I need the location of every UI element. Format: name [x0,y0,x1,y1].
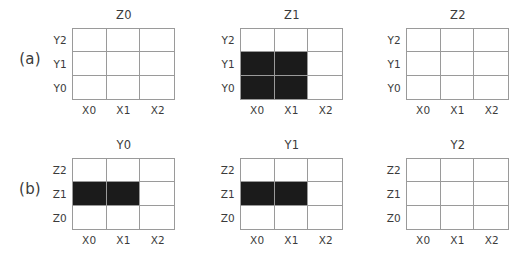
grid-cell-empty [308,182,342,205]
x-axis-labels-z1: X0 X1 X2 [240,104,343,116]
x-tick-label: X0 [240,234,274,246]
panel-title-z1: Z1 [240,8,344,22]
x-tick-label: X1 [106,234,140,246]
panel-title-z2: Z2 [406,8,510,22]
grid-wrap-y1 [240,158,343,230]
panel-title-y0: Y0 [72,138,176,152]
grid-cell-empty [107,76,141,99]
panel-title-y2: Y2 [406,138,510,152]
panel-y1: Y1 Z2 Z1 Z0 X0 X1 X2 [186,130,346,259]
figure-row-a: (a) Z0 Y2 Y1 Y0 X0 X1 X2 Z1 Y2 Y1 [0,0,498,129]
grid-z0 [72,28,175,100]
y-tick-label: Z0 [21,212,67,224]
grid-cell-empty [107,52,141,75]
grid-cell-empty [140,159,174,182]
panel-y0: Y0 Z2 Z1 Z0 X0 X1 X2 [18,130,178,259]
x-tick-label: X2 [475,104,509,116]
grid-cell-empty [441,206,475,229]
grid-cell-empty [474,29,508,52]
panel-z1: Z1 Y2 Y1 Y0 X0 X1 X2 [186,0,346,129]
grid-y1 [240,158,343,230]
grid-cell-filled [241,182,275,205]
grid-cell-empty [441,182,475,205]
grid-cell-empty [241,159,275,182]
x-tick-label: X1 [440,104,474,116]
grid-cell-filled [73,182,107,205]
grid-cell-empty [407,52,441,75]
x-tick-label: X2 [309,104,343,116]
grid-cell-empty [407,159,441,182]
grid-cell-filled [275,76,309,99]
grid-cell-empty [140,29,174,52]
panel-z0: Z0 Y2 Y1 Y0 X0 X1 X2 [18,0,178,129]
grid-cell-empty [441,52,475,75]
grid-cell-empty [73,29,107,52]
grid-cell-empty [140,76,174,99]
y-tick-label: Y2 [21,34,67,46]
grid-z2 [406,28,509,100]
grid-cell-empty [73,206,107,229]
x-tick-label: X2 [141,234,175,246]
y-tick-label: Z1 [21,188,67,200]
grid-cell-empty [407,76,441,99]
y-tick-label: Y2 [189,34,235,46]
panel-title-z0: Z0 [72,8,176,22]
x-tick-label: X0 [72,234,106,246]
y-tick-label: Y0 [355,82,401,94]
grid-cell-empty [474,159,508,182]
x-tick-label: X2 [475,234,509,246]
grid-z1 [240,28,343,100]
x-tick-label: X0 [406,234,440,246]
figure-row-b: (b) Y0 Z2 Z1 Z0 X0 X1 X2 Y1 Z2 Z1 [0,130,498,259]
grid-cell-filled [275,182,309,205]
grid-cell-empty [275,206,309,229]
y-tick-label: Y2 [355,34,401,46]
grid-cell-empty [73,159,107,182]
grid-cell-empty [241,29,275,52]
grid-cell-empty [474,76,508,99]
grid-cell-empty [308,52,342,75]
x-axis-labels-y1: X0 X1 X2 [240,234,343,246]
grid-cell-empty [308,206,342,229]
x-tick-label: X1 [440,234,474,246]
grid-cell-empty [140,182,174,205]
x-axis-labels-z0: X0 X1 X2 [72,104,175,116]
grid-wrap-z0 [72,28,175,100]
y-tick-label: Y1 [21,58,67,70]
x-tick-label: X1 [274,104,308,116]
grid-cell-filled [275,52,309,75]
grid-wrap-y0 [72,158,175,230]
panel-title-y1: Y1 [240,138,344,152]
x-tick-label: X0 [240,104,274,116]
grid-cell-filled [107,182,141,205]
grid-cell-empty [474,206,508,229]
y-tick-label: Z2 [21,164,67,176]
x-tick-label: X0 [406,104,440,116]
x-tick-label: X2 [309,234,343,246]
grid-y0 [72,158,175,230]
x-axis-labels-y2: X0 X1 X2 [406,234,509,246]
y-tick-label: Z1 [189,188,235,200]
grid-cell-empty [275,29,309,52]
x-tick-label: X1 [274,234,308,246]
y-tick-label: Y1 [355,58,401,70]
grid-cell-empty [140,52,174,75]
panel-y2: Y2 Z2 Z1 Z0 X0 X1 X2 [352,130,512,259]
grid-cell-empty [73,52,107,75]
grid-y2 [406,158,509,230]
grid-cell-empty [308,29,342,52]
grid-wrap-z1 [240,28,343,100]
x-tick-label: X2 [141,104,175,116]
grid-cell-empty [441,29,475,52]
grid-cell-empty [474,52,508,75]
grid-cell-empty [107,29,141,52]
grid-cell-empty [441,76,475,99]
y-tick-label: Y0 [189,82,235,94]
grid-cell-empty [107,159,141,182]
grid-cell-empty [407,206,441,229]
x-tick-label: X1 [106,104,140,116]
grid-cell-empty [308,76,342,99]
x-axis-labels-y0: X0 X1 X2 [72,234,175,246]
grid-cell-empty [275,159,309,182]
